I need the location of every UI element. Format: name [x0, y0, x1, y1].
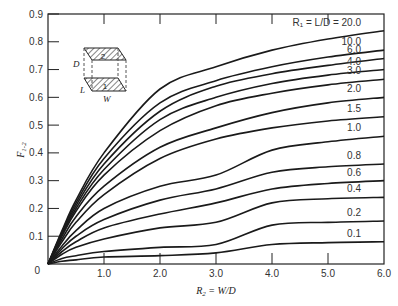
curve-label: 0.2 [347, 207, 361, 218]
y-tick-label: 0.7 [29, 64, 43, 75]
origin-label: 0 [34, 265, 40, 276]
curve-label: 6.0 [347, 44, 361, 55]
svg-text:2: 2 [101, 52, 106, 61]
svg-text:1: 1 [103, 82, 108, 91]
svg-text:W: W [103, 94, 112, 104]
curve-r1-0.8 [48, 164, 384, 264]
curves [48, 31, 384, 264]
curve-r1-20.0 [48, 31, 384, 264]
y-tick-label: 0.8 [29, 36, 43, 47]
curve-label: 1.5 [347, 103, 361, 114]
y-tick-label: 0.4 [29, 147, 43, 158]
curve-label: 0.1 [347, 228, 361, 239]
curve-labels: R₁ = L/D = 20.010.06.04.03.02.01.51.00.8… [293, 17, 362, 239]
curve-label: R₁ = L/D = 20.0 [293, 17, 362, 28]
y-tick-label: 0.2 [29, 203, 43, 214]
y-tick-label: 0.3 [29, 175, 43, 186]
y-tick-label: 0.5 [29, 120, 43, 131]
x-tick-label: 5.0 [321, 268, 335, 279]
y-tick-label: 0.6 [29, 92, 43, 103]
x-tick-label: 3.0 [209, 268, 223, 279]
x-tick-label: 2.0 [153, 268, 167, 279]
curve-label: 0.4 [347, 183, 361, 194]
view-factor-chart: 0.10.20.30.40.50.60.70.80.9 1.02.03.04.0… [0, 0, 398, 306]
parallel-plates-diagram: 2 1 D L W [72, 48, 126, 104]
svg-text:D: D [72, 59, 80, 69]
curve-label: 0.6 [347, 167, 361, 178]
y-axis-ticks: 0.10.20.30.40.50.60.70.80.9 [29, 9, 59, 242]
y-tick-label: 0.9 [29, 9, 43, 20]
curve-label: 1.0 [347, 122, 361, 133]
curve-label: 3.0 [347, 65, 361, 76]
curve-label: 2.0 [347, 83, 361, 94]
y-axis-title: F1-2 [15, 142, 28, 159]
x-axis-title: R2 = W/D [195, 285, 236, 298]
x-tick-label: 1.0 [97, 268, 111, 279]
curve-label: 0.8 [347, 150, 361, 161]
x-tick-label: 4.0 [265, 268, 279, 279]
svg-text:L: L [79, 85, 85, 95]
y-tick-label: 0.1 [29, 231, 43, 242]
x-tick-label: 6.0 [377, 268, 391, 279]
